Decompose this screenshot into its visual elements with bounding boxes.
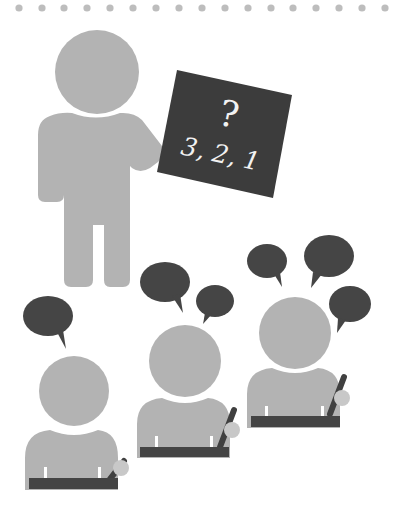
speech-bubble-icon [247,244,287,287]
desk [29,478,118,489]
dotted-border [15,4,388,11]
student-head [259,297,331,369]
teacher-body [38,113,163,287]
illustration-canvas: ? 3, 2, 1 [0,0,398,508]
teacher-figure [38,30,163,287]
teacher-head [55,30,139,114]
student-head [149,325,221,397]
student-2 [137,262,240,458]
student-head [39,356,109,426]
board-panel [157,70,292,198]
speech-bubble-icon [304,235,354,288]
student-arm-gap [44,467,47,479]
student-arm-gap [155,436,158,448]
board: ? 3, 2, 1 [157,70,292,198]
desk [251,416,340,427]
student-arm-gap [210,436,213,448]
speech-bubble-icon [329,286,371,333]
desk [140,447,229,457]
student-1 [23,296,129,490]
speech-bubble-icon [23,296,73,349]
speech-bubble-icon [140,262,190,313]
student-3 [247,235,371,428]
speech-bubble-icon [196,285,234,324]
student-arm-gap [98,467,101,479]
